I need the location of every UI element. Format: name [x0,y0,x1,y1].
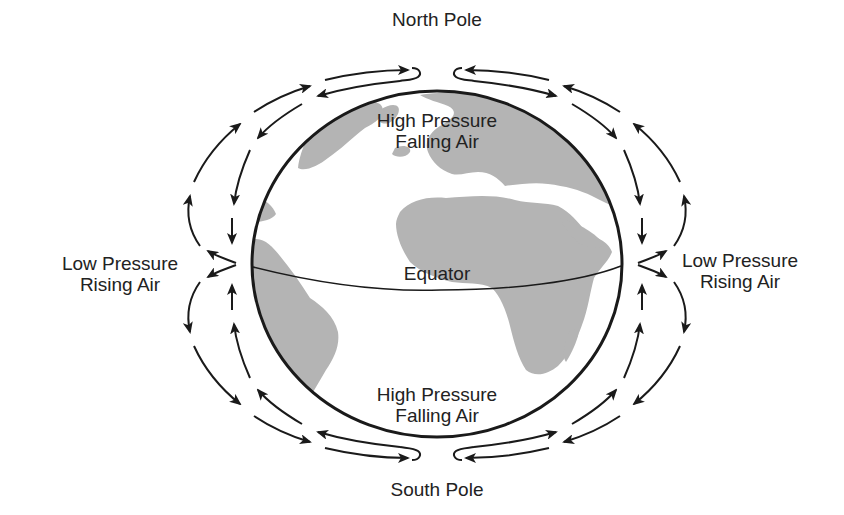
high-north-line1: High Pressure [317,110,557,131]
high-north-line2: Falling Air [317,131,557,152]
south-pole-label: South Pole [337,479,537,500]
low-left-line1: Low Pressure [20,253,220,274]
high-pressure-south-label: High Pressure Falling Air [317,384,557,426]
equator-label: Equator [367,263,507,284]
low-right-line1: Low Pressure [640,250,840,271]
equator-text: Equator [367,263,507,284]
circulation-diagram: North Pole High Pressure Falling Air Low… [0,0,844,515]
high-south-line2: Falling Air [317,405,557,426]
high-pressure-north-label: High Pressure Falling Air [317,110,557,152]
low-pressure-right-label: Low Pressure Rising Air [640,250,840,292]
north-pole-label: North Pole [337,9,537,30]
south-pole-text: South Pole [337,479,537,500]
low-right-line2: Rising Air [640,271,840,292]
low-pressure-left-label: Low Pressure Rising Air [20,253,220,295]
low-left-line2: Rising Air [20,274,220,295]
high-south-line1: High Pressure [317,384,557,405]
north-pole-text: North Pole [337,9,537,30]
